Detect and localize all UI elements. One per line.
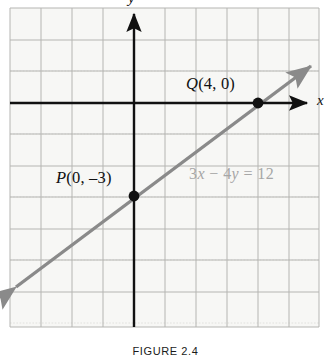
point-marker-p	[129, 191, 140, 202]
coordinate-plane-graph	[0, 0, 331, 357]
point-marker-q	[253, 98, 264, 109]
point-label-p-letter: P	[56, 168, 66, 187]
figure-container: Q(4, 0) P(0, –3) 3x − 4y = 12 x y FIGURE…	[0, 0, 331, 357]
point-label-q: Q(4, 0)	[186, 76, 235, 93]
y-axis-label: y	[128, 0, 135, 6]
point-label-p: P(0, –3)	[56, 170, 112, 187]
equation-minus: −	[205, 165, 223, 182]
equation-constant: 12	[257, 165, 274, 182]
x-axis-label: x	[317, 93, 324, 108]
line-equation-label: 3x − 4y = 12	[189, 166, 274, 182]
figure-caption: FIGURE 2.4	[0, 345, 331, 357]
equation-equals: =	[239, 165, 257, 182]
equation-var-x: x	[197, 165, 205, 182]
point-label-p-coords: (0, –3)	[66, 168, 111, 187]
point-label-q-letter: Q	[186, 74, 198, 93]
equation-var-y: y	[232, 165, 240, 182]
equation-coef-y: 4	[223, 165, 231, 182]
point-label-q-coords: (4, 0)	[198, 74, 235, 93]
